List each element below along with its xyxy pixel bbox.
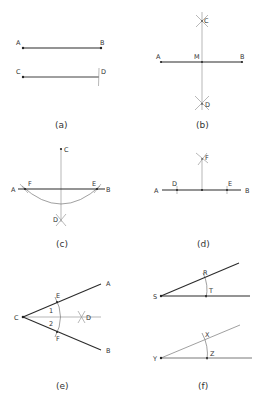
label-a: A <box>156 53 161 61</box>
label-d: D <box>205 101 210 109</box>
label-z: Z <box>210 350 215 358</box>
point-f <box>24 188 26 190</box>
point-c <box>22 76 24 78</box>
label-d: D <box>172 180 177 188</box>
point-y <box>160 357 162 359</box>
caption-c: (c) <box>56 239 68 249</box>
point-d <box>201 103 203 105</box>
label-a: A <box>106 280 111 288</box>
figure-c: A B C D E F (c) <box>11 146 110 249</box>
figure-d: A B D E F (d) <box>154 153 249 249</box>
label-angle-2: 2 <box>49 320 53 328</box>
label-r: R <box>203 269 208 277</box>
label-angle-1: 1 <box>49 307 53 315</box>
label-e: E <box>92 180 96 188</box>
label-f: F <box>28 180 32 188</box>
label-c: C <box>64 146 69 154</box>
caption-a: (a) <box>55 120 68 130</box>
label-x: X <box>205 331 210 339</box>
geometry-constructions-figure: A B C D (a) A B M C D (b) <box>0 0 263 403</box>
label-f: F <box>56 335 60 343</box>
point-z <box>206 357 208 359</box>
point-t <box>205 295 207 297</box>
label-b: B <box>106 347 110 355</box>
caption-d: (d) <box>197 239 210 249</box>
caption-b: (b) <box>196 120 209 130</box>
point-d <box>176 189 178 191</box>
label-d: D <box>53 216 58 224</box>
label-c: C <box>204 17 209 25</box>
point-e <box>96 188 98 190</box>
caption-e: (e) <box>56 381 69 391</box>
ray-ca <box>23 284 101 317</box>
caption-f: (f) <box>198 381 208 391</box>
point-f <box>56 331 58 333</box>
point-c <box>60 148 62 150</box>
label-m: M <box>194 53 200 61</box>
label-a: A <box>154 187 159 195</box>
label-s: S <box>153 293 157 301</box>
label-b: B <box>245 187 249 195</box>
point-center <box>201 189 203 191</box>
point-c <box>201 20 203 22</box>
ray-sr <box>161 263 239 296</box>
label-e: E <box>56 292 60 300</box>
label-y: Y <box>152 355 157 363</box>
point-b <box>241 61 243 63</box>
label-t: T <box>208 287 213 295</box>
point-f <box>201 158 203 160</box>
label-d: D <box>86 314 91 322</box>
figure-e: C A B E F D 1 2 (e) <box>14 280 111 391</box>
point-a <box>22 47 24 49</box>
point-e <box>56 301 58 303</box>
label-e: E <box>228 180 232 188</box>
label-b: B <box>100 39 104 47</box>
point-e <box>226 189 228 191</box>
label-a: A <box>16 39 21 47</box>
label-f: F <box>205 154 209 162</box>
compass-arc-mark <box>99 68 100 86</box>
label-b: B <box>106 186 110 194</box>
point-b <box>100 47 102 49</box>
point-m <box>201 61 203 63</box>
point-a <box>160 61 162 63</box>
label-c: C <box>14 314 19 322</box>
figure-b: A B M C D (b) <box>156 12 244 130</box>
label-a: A <box>11 186 16 194</box>
label-b: B <box>240 53 244 61</box>
point-s <box>160 295 162 297</box>
figure-a: A B C D (a) <box>16 39 106 130</box>
label-d: D <box>101 68 106 76</box>
figure-f: S R T Y X Z (f) <box>152 263 252 391</box>
label-c: C <box>16 68 21 76</box>
point-c <box>22 316 25 319</box>
ray-yx <box>161 325 240 358</box>
